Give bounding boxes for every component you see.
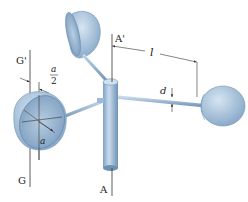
left-cup	[12, 89, 72, 160]
label-arm-diameter: d	[160, 85, 166, 96]
label-axis-bottom: A	[99, 184, 108, 195]
label-cup-axis-top: G'	[16, 55, 27, 66]
label-cup-axis-bottom: G	[18, 175, 26, 186]
label-offset-fraction: a 2	[50, 64, 58, 86]
fraction-denominator: 2	[51, 76, 57, 86]
central-post	[97, 79, 118, 171]
label-arm-length: l	[150, 46, 154, 59]
anemometer-diagram: A' A G' G l d a a 2	[0, 0, 248, 202]
top-cup	[63, 11, 101, 58]
right-arm	[116, 97, 208, 106]
right-cup	[201, 86, 245, 126]
label-axis-top: A'	[114, 33, 125, 44]
arm-length-dimension	[113, 46, 198, 97]
fraction-numerator: a	[51, 64, 56, 74]
label-cup-radius: a	[40, 136, 45, 146]
